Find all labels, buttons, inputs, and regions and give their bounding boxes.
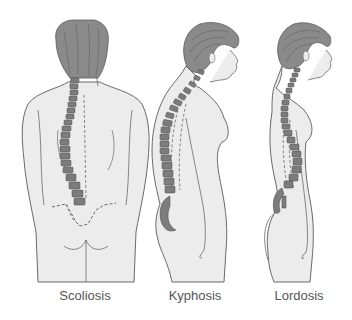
caption-kyphosis: Kyphosis — [150, 288, 240, 303]
scoliosis-hair — [56, 20, 109, 78]
scoliosis-figure — [22, 20, 149, 282]
lordosis-figure — [265, 23, 332, 282]
caption-scoliosis: Scoliosis — [40, 288, 130, 303]
caption-lordosis: Lordosis — [254, 288, 344, 303]
spine-conditions-illustration — [0, 0, 352, 285]
kyphosis-figure — [152, 23, 239, 283]
